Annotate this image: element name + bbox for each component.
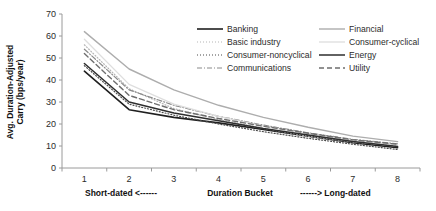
legend-label-consumer-noncyclical: Consumer-noncyclical xyxy=(227,50,312,60)
legend-label-energy: Energy xyxy=(349,50,377,60)
y-tick-label: 60 xyxy=(46,31,56,41)
x-tick-label: 7 xyxy=(350,174,355,184)
long-dated-annotation: ------> Long-dated xyxy=(300,188,371,198)
y-tick-label: 70 xyxy=(46,9,56,19)
legend-label-consumer-cyclical: Consumer-cyclical xyxy=(349,37,419,47)
line-chart: 01020304050607012345678Avg. Duration-Adj… xyxy=(0,0,436,211)
legend-item-communications[interactable]: Communications xyxy=(197,63,291,73)
series-line-consumer-noncyclical xyxy=(84,66,397,150)
legend-item-basic-industry[interactable]: Basic industry xyxy=(197,37,281,47)
x-tick-label: 4 xyxy=(216,174,221,184)
y-tick-label: 0 xyxy=(51,163,56,173)
short-dated-annotation: Short-dated <------ xyxy=(85,188,157,198)
legend-label-utility: Utility xyxy=(349,63,371,73)
legend-item-consumer-cyclical[interactable]: Consumer-cyclical xyxy=(319,37,419,47)
x-tick-label: 1 xyxy=(82,174,87,184)
x-axis-title: Duration Bucket xyxy=(207,188,273,198)
legend-label-banking: Banking xyxy=(227,24,258,34)
y-axis-title: Avg. Duration-AdjustedCarry (bps/year) xyxy=(5,45,25,140)
y-tick-label: 30 xyxy=(46,97,56,107)
x-tick-label: 6 xyxy=(306,174,311,184)
legend-label-financial: Financial xyxy=(349,24,383,34)
legend-item-financial[interactable]: Financial xyxy=(319,24,383,34)
y-axis-title-line1: Avg. Duration-Adjusted xyxy=(5,45,15,140)
legend-item-utility[interactable]: Utility xyxy=(319,63,371,73)
x-tick-label: 2 xyxy=(127,174,132,184)
legend-item-energy[interactable]: Energy xyxy=(319,50,377,60)
y-tick-label: 50 xyxy=(46,53,56,63)
y-tick-label: 10 xyxy=(46,141,56,151)
legend-label-basic-industry: Basic industry xyxy=(227,37,281,47)
y-tick-label: 20 xyxy=(46,119,56,129)
x-tick-label: 3 xyxy=(171,174,176,184)
y-tick-label: 40 xyxy=(46,75,56,85)
legend-item-consumer-noncyclical[interactable]: Consumer-noncyclical xyxy=(197,50,312,60)
y-axis-title-line2: Carry (bps/year) xyxy=(15,59,25,124)
chart-container: 01020304050607012345678Avg. Duration-Adj… xyxy=(0,0,436,211)
legend-item-banking[interactable]: Banking xyxy=(197,24,258,34)
legend-label-communications: Communications xyxy=(227,63,291,73)
x-tick-label: 5 xyxy=(261,174,266,184)
x-tick-label: 8 xyxy=(395,174,400,184)
